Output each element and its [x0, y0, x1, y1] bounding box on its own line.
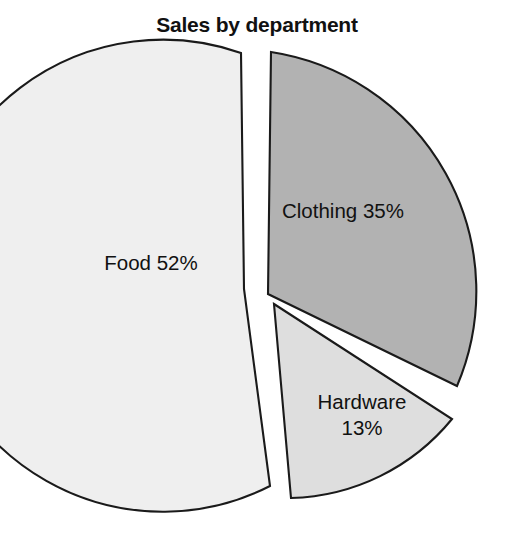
pie-chart-figure: Sales by department Food 52% Clothing 35… [0, 0, 514, 533]
pie-label-hardware-line1: Hardware [292, 389, 432, 415]
pie-label-hardware-line2: 13% [292, 415, 432, 441]
pie-label-hardware: Hardware 13% [292, 389, 432, 441]
pie-label-food: Food 52% [66, 250, 236, 276]
pie-label-clothing: Clothing 35% [282, 198, 472, 224]
